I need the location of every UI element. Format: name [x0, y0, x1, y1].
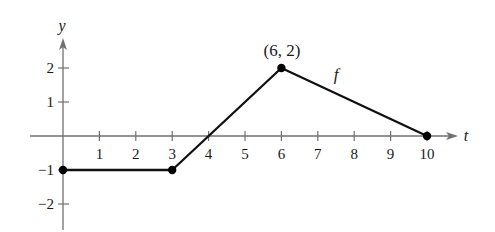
- function-label: f: [334, 65, 341, 84]
- axes: [30, 38, 458, 230]
- x-tick-label: 4: [205, 146, 213, 162]
- piecewise-function-chart: 1234567891021−1−2 y t (6, 2) f: [0, 0, 495, 232]
- x-tick-label: 7: [314, 146, 322, 162]
- x-tick-label: 1: [96, 146, 104, 162]
- x-tick-label: 6: [278, 146, 286, 162]
- x-tick-label: 9: [387, 146, 395, 162]
- point-annotation: (6, 2): [264, 41, 301, 60]
- data-point: [59, 166, 67, 174]
- x-tick-label: 3: [168, 146, 176, 162]
- x-tick-label: 2: [132, 146, 140, 162]
- x-tick-label: 5: [241, 146, 249, 162]
- x-tick-label: 10: [420, 146, 435, 162]
- data-point: [168, 166, 176, 174]
- chart-svg: 1234567891021−1−2 y t (6, 2) f: [0, 0, 495, 232]
- x-tick-label: 8: [350, 146, 358, 162]
- x-axis-label: t: [464, 127, 469, 144]
- y-axis-label: y: [56, 17, 66, 35]
- y-tick-label: 2: [47, 60, 55, 76]
- data-point: [277, 64, 285, 72]
- data-point: [423, 132, 431, 140]
- y-tick-label: 1: [47, 94, 55, 110]
- y-tick-label: −1: [38, 162, 54, 178]
- y-tick-label: −2: [38, 196, 54, 212]
